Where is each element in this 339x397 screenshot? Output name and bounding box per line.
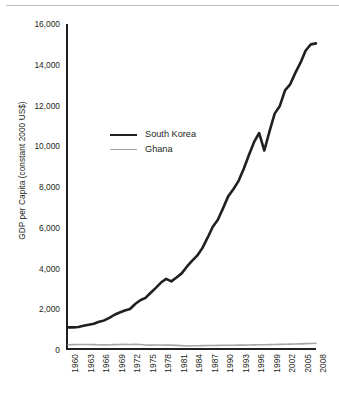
x-tick-label: 1984 [195, 354, 203, 373]
x-tick-label: 1996 [257, 354, 265, 373]
series-line-ghana [68, 343, 316, 346]
x-tick-label: 1960 [71, 354, 79, 373]
series-paths [68, 24, 316, 350]
x-tick-label: 1981 [180, 354, 188, 373]
legend-item-ghana: Ghana [110, 142, 230, 157]
x-tick-label: 1990 [226, 354, 234, 373]
x-tick-label: 1972 [133, 354, 141, 373]
chart-legend: South Korea Ghana [110, 127, 230, 157]
y-tick-label: 12,000 [34, 102, 60, 110]
x-tick-label: 1978 [164, 354, 172, 373]
x-tick-label: 1969 [118, 354, 126, 373]
legend-item-south-korea: South Korea [110, 127, 230, 142]
y-tick-label: 8,000 [39, 183, 60, 191]
y-tick-label: 10,000 [34, 142, 60, 150]
legend-swatch-south-korea [110, 134, 137, 136]
series-line-south-korea [68, 43, 316, 327]
chart-figure: GDP per Capita (constant 2000 US$) 02,00… [0, 0, 339, 397]
x-tick-label: 1963 [87, 354, 95, 373]
x-tick-label: 1993 [242, 354, 250, 373]
x-tick-label: 1975 [149, 354, 157, 373]
y-tick-label: 16,000 [34, 20, 60, 28]
x-axis-tick-labels: 1960196319661969197219751978198119841987… [0, 350, 339, 397]
plot-area [68, 24, 316, 350]
x-tick-label: 2002 [288, 354, 296, 373]
legend-label-ghana: Ghana [145, 145, 173, 154]
legend-label-south-korea: South Korea [145, 130, 196, 139]
legend-swatch-ghana [110, 149, 137, 150]
x-tick-label: 1966 [102, 354, 110, 373]
y-tick-label: 4,000 [39, 265, 60, 273]
y-tick-label: 2,000 [39, 305, 60, 313]
x-tick-label: 1999 [273, 354, 281, 373]
x-tick-label: 2005 [304, 354, 312, 373]
y-axis-label: GDP per Capita (constant 2000 US$) [18, 66, 27, 276]
top-divider-rule [6, 5, 339, 6]
x-tick-label: 1987 [211, 354, 219, 373]
y-tick-label: 14,000 [34, 61, 60, 69]
y-tick-label: 6,000 [39, 224, 60, 232]
x-tick-label: 2008 [319, 354, 327, 373]
